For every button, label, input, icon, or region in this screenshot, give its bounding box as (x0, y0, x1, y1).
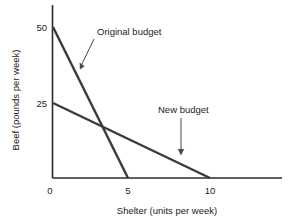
annotation-label-new-budget: New budget (158, 104, 209, 115)
x-tick-label-5: 5 (125, 185, 130, 196)
y-axis-title: Beef (pounds per week) (10, 50, 21, 151)
series-line-original-budget (53, 27, 128, 178)
annotation-arrow-original-budget (80, 39, 94, 70)
x-tick-label-10: 10 (205, 185, 216, 196)
budget-constraint-chart: 50 25 0 5 10 Shelter (units per week) Be… (0, 0, 293, 223)
chart-canvas: 50 25 0 5 10 Shelter (units per week) Be… (0, 0, 293, 223)
x-axis-title: Shelter (units per week) (117, 205, 217, 216)
y-tick-label-25: 25 (36, 98, 47, 109)
annotation-label-original-budget: Original budget (97, 26, 162, 37)
y-tick-label-50: 50 (36, 22, 47, 33)
x-tick-label-0: 0 (47, 185, 52, 196)
annotation-arrow-new-budget (178, 118, 184, 156)
